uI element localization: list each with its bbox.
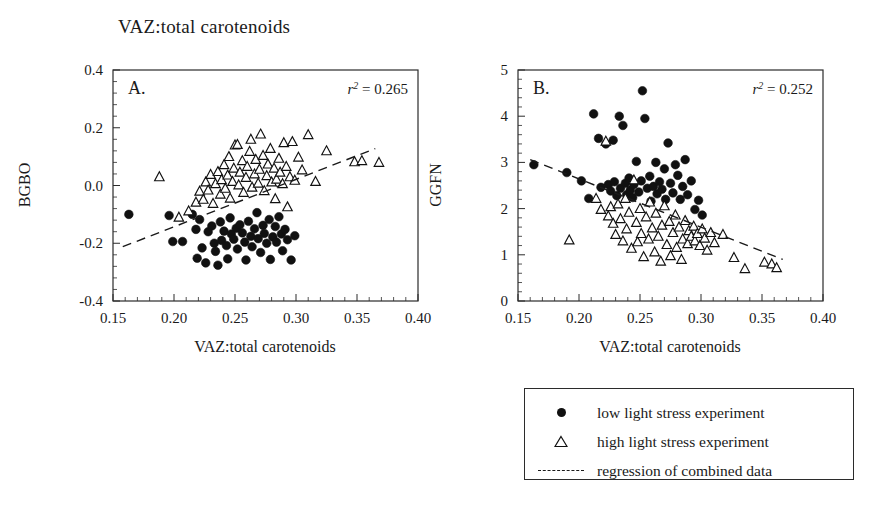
legend-item-regression: regression of combined data <box>525 459 853 482</box>
data-point-triangle <box>636 229 646 238</box>
r-squared-label-a: r2 = 0.265 <box>347 80 408 98</box>
scatter-plot-a: A. r2 = 0.265 0.150.200.250.300.350.40 -… <box>0 52 440 362</box>
y-tick-label: 4 <box>501 108 509 124</box>
legend-label-high-light: high light stress experiment <box>597 433 769 451</box>
data-point-circle <box>610 178 619 187</box>
x-tick-label: 0.15 <box>505 310 531 326</box>
data-point-circle <box>236 220 245 229</box>
data-point-circle <box>260 229 269 238</box>
data-point-circle <box>645 172 654 181</box>
scatter-plot-b: B. r2 = 0.252 0.150.200.250.300.350.40 0… <box>405 52 865 362</box>
data-point-triangle <box>294 152 304 161</box>
data-point-triangle <box>246 134 256 143</box>
data-point-circle <box>198 244 207 253</box>
x-tick-labels-a: 0.150.200.250.300.350.40 <box>100 310 431 326</box>
filled-circle-icon <box>525 408 597 417</box>
data-point-triangle <box>263 159 273 168</box>
y-axis-title-a: BGBO <box>16 163 33 207</box>
legend-item-low-light: low light stress experiment <box>525 401 853 424</box>
data-point-circle <box>290 231 299 240</box>
data-point-circle <box>214 261 223 270</box>
data-point-circle <box>683 190 692 199</box>
data-point-triangle <box>672 242 682 251</box>
data-point-triangle <box>654 231 664 240</box>
x-tick-label: 0.35 <box>344 310 370 326</box>
data-point-circle <box>691 205 700 214</box>
data-point-triangle <box>155 172 165 181</box>
panel-label-a: A. <box>128 78 146 98</box>
y-tick-label: 0.2 <box>84 120 103 136</box>
data-point-triangle <box>274 153 284 162</box>
data-point-circle <box>222 241 231 250</box>
data-point-triangle <box>255 164 265 173</box>
data-point-triangle <box>666 251 676 260</box>
data-point-circle <box>250 225 259 234</box>
data-point-triangle <box>283 202 293 211</box>
data-point-circle <box>678 182 687 191</box>
data-point-triangle <box>322 146 332 155</box>
data-point-circle <box>632 157 641 166</box>
x-tick-label: 0.20 <box>566 310 592 326</box>
data-point-circle <box>634 188 643 197</box>
data-point-circle <box>275 212 284 221</box>
data-point-circle <box>178 237 187 246</box>
x-tick-label: 0.30 <box>688 310 714 326</box>
data-point-triangle <box>677 254 687 263</box>
data-point-triangle <box>266 144 276 153</box>
data-point-circle <box>216 218 225 227</box>
data-point-triangle <box>208 198 218 207</box>
data-point-triangle <box>639 252 649 261</box>
data-point-triangle <box>174 212 184 221</box>
regression-line-a <box>123 149 376 247</box>
data-point-triangle <box>271 194 281 203</box>
data-point-circle <box>168 237 177 246</box>
data-point-triangle <box>656 256 666 265</box>
x-tick-label: 0.15 <box>100 310 126 326</box>
data-point-triangle <box>564 235 574 244</box>
r-squared-value-a: 0.265 <box>374 81 408 97</box>
data-point-circle <box>687 177 696 186</box>
data-point-circle <box>589 110 598 119</box>
dashed-line-icon <box>525 470 597 471</box>
data-point-circle <box>694 196 703 205</box>
data-point-triangle <box>624 207 634 216</box>
data-point-circle <box>615 112 624 121</box>
data-point-triangle <box>225 193 235 202</box>
data-point-triangle <box>650 247 660 256</box>
data-point-circle <box>669 189 678 198</box>
data-point-circle <box>664 139 673 148</box>
data-point-circle <box>229 235 238 244</box>
data-point-circle <box>233 245 242 254</box>
data-point-circle <box>226 214 235 223</box>
figure-root: VAZ:total carotenoids A. r2 = 0.265 0.15… <box>0 0 882 506</box>
r-squared-value-b: 0.252 <box>779 81 813 97</box>
legend: low light stress experiment high light s… <box>524 388 854 480</box>
y-tick-label: 0 <box>501 293 509 309</box>
data-point-circle <box>265 215 274 224</box>
data-point-triangle <box>288 137 298 146</box>
data-point-circle <box>577 177 586 186</box>
data-point-circle <box>242 256 251 265</box>
figure-title: VAZ:total carotenoids <box>118 16 290 38</box>
data-point-circle <box>238 229 247 238</box>
data-point-triangle <box>374 157 384 166</box>
data-point-circle <box>674 171 683 180</box>
data-point-circle <box>248 242 257 251</box>
y-tick-label: -0.4 <box>79 293 103 309</box>
data-point-circle <box>125 210 134 219</box>
data-point-circle <box>676 195 685 204</box>
data-point-triangle <box>622 224 632 233</box>
data-point-circle <box>652 158 661 167</box>
chart-panel-a: A. r2 = 0.265 0.150.200.250.300.350.40 -… <box>0 52 440 362</box>
data-point-circle <box>271 222 280 231</box>
data-point-triangle <box>760 257 770 266</box>
x-tick-label: 0.35 <box>749 310 775 326</box>
data-points-a <box>125 129 384 269</box>
data-point-circle <box>211 247 220 256</box>
plot-frame-a <box>113 70 418 301</box>
open-triangle-icon <box>525 435 597 448</box>
data-point-triangle <box>740 264 750 273</box>
data-point-circle <box>619 121 628 130</box>
y-tick-label: 0.4 <box>84 62 103 78</box>
data-point-circle <box>671 160 680 169</box>
